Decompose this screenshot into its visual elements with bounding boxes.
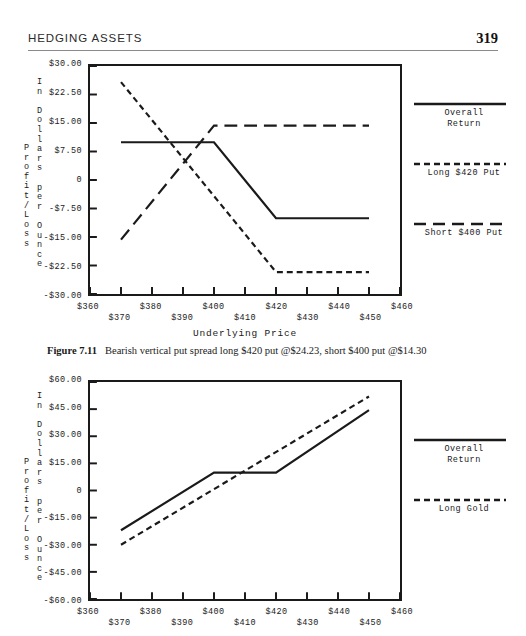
series-1: [121, 82, 369, 272]
x-tick-label: $380: [140, 302, 162, 312]
x-tick-label: $390: [171, 618, 193, 628]
y-tick-label: $7.50: [28, 146, 82, 156]
y-tick-label: $45.00: [28, 403, 82, 413]
legend-swatch: [414, 498, 512, 502]
chart1-plot-area: [88, 64, 402, 296]
x-tick-label: $460: [391, 607, 413, 617]
y-tick-label: -$15.00: [28, 233, 82, 243]
x-tick-label: $380: [140, 607, 162, 617]
figure-caption-number: Figure 7.11: [47, 345, 97, 356]
x-tick-label: $360: [77, 607, 99, 617]
legend-label: Short $400 Put: [408, 228, 520, 239]
legend-swatch: [414, 438, 512, 442]
y-tick-label: -$7.50: [28, 204, 82, 214]
x-tick-label: $410: [234, 313, 256, 323]
x-tick-label: $370: [108, 313, 130, 323]
legend-label: Overall Return: [408, 108, 520, 129]
x-tick-label: $390: [171, 313, 193, 323]
x-tick-label: $410: [234, 618, 256, 628]
x-tick-label: $420: [265, 302, 287, 312]
x-tick-label: $400: [203, 607, 225, 617]
y-tick-label: -$15.00: [28, 513, 82, 523]
y-tick-label: -$22.50: [28, 262, 82, 272]
y-tick-label: -$60.00: [28, 596, 82, 606]
chart1-x-axis-title: Underlying Price: [193, 328, 297, 339]
legend-label: Long Gold: [408, 504, 520, 515]
y-tick-label: -$30.00: [28, 541, 82, 551]
legend-label: Long $420 Put: [408, 168, 520, 179]
x-tick-label: $360: [77, 302, 99, 312]
running-head-title: HEDGING ASSETS: [28, 32, 142, 44]
x-tick-label: $370: [108, 618, 130, 628]
page-header: HEDGING ASSETS 319: [28, 32, 498, 54]
y-tick-label: -$45.00: [28, 568, 82, 578]
y-tick-label: 0: [28, 175, 82, 185]
y-tick-label: $30.00: [28, 430, 82, 440]
series-0: [121, 142, 369, 218]
x-tick-label: $430: [297, 313, 319, 323]
chart2-plot-svg: [90, 382, 400, 599]
y-tick-label: $60.00: [28, 375, 82, 385]
chart2-legend: Overall Return Long Gold: [408, 438, 524, 548]
chart1-legend: Overall Return Long $420 Put Short $400 …: [408, 102, 524, 252]
figure-lower: P r o f i t / L o s s I n D o l l a r s …: [0, 372, 526, 636]
legend-swatch: [414, 222, 512, 226]
legend-swatch: [414, 102, 512, 106]
legend-label: Overall Return: [408, 444, 520, 465]
x-tick-label: $440: [328, 607, 350, 617]
legend-swatch: [414, 162, 512, 166]
figure-7-11: P r o f i t / L o s s I n D o l l a r s …: [0, 56, 526, 346]
y-tick-label: 0: [28, 486, 82, 496]
page-number: 319: [476, 30, 498, 47]
x-tick-label: $450: [360, 618, 382, 628]
y-tick-label: $15.00: [28, 458, 82, 468]
y-tick-label: $15.00: [28, 117, 82, 127]
header-divider: [28, 50, 498, 51]
chart2-plot-area: [88, 380, 402, 601]
x-tick-label: $440: [328, 302, 350, 312]
y-tick-label: $30.00: [28, 59, 82, 69]
series-1: [121, 396, 369, 544]
x-tick-label: $400: [203, 302, 225, 312]
x-tick-label: $430: [297, 618, 319, 628]
figure-caption: Figure 7.11Bearish vertical put spread l…: [47, 344, 509, 357]
x-tick-label: $460: [391, 302, 413, 312]
series-0: [121, 410, 369, 530]
x-tick-label: $450: [360, 313, 382, 323]
x-tick-label: $420: [265, 607, 287, 617]
y-tick-label: $22.50: [28, 88, 82, 98]
figure-caption-text: Bearish vertical put spread long $420 pu…: [105, 345, 426, 356]
chart1-plot-svg: [90, 66, 400, 294]
y-tick-label: -$30.00: [28, 291, 82, 301]
